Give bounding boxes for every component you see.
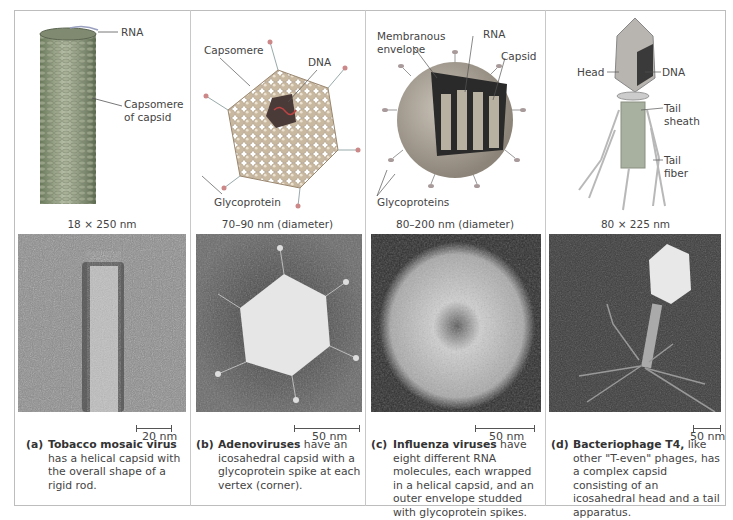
t4-micrograph [549,234,721,412]
label-capsid: Capsid [501,50,536,63]
panel-tobacco-mosaic-virus: RNA Capsomere of capsid 18 × 250 nm 20 n… [14,10,190,506]
caption-text: has a helical capsid with the overall sh… [48,452,180,492]
label-tail-sheath: Tail sheath [664,102,700,127]
caption-title: Tobacco mosaic virus [48,438,177,451]
label-glycoproteins: Glycoproteins [377,196,449,209]
caption-c: (c) Influenza viruses have eight differe… [371,438,543,520]
dimensions-label: 70–90 nm (diameter) [190,218,365,230]
caption-letter: (a) [26,438,43,452]
scale-bar [693,428,721,429]
scale-bar [475,428,535,429]
caption-title: Bacteriophage T4, [573,438,684,451]
panel-influenza-virus: Membranous envelope RNA Capsid Glycoprot… [365,10,545,506]
label-capsomere-of-capsid: Capsomere of capsid [124,98,184,123]
caption-title: Influenza viruses [393,438,497,451]
label-rna: RNA [121,26,143,39]
dimensions-label: 18 × 250 nm [14,218,190,230]
label-tail-fiber: Tail fiber [664,154,688,179]
panel-adenovirus: Capsomere DNA Glycoprotein 70–90 nm (dia… [190,10,365,506]
caption-a: (a) Tobacco mosaic virus has a helical c… [26,438,186,492]
scale-bar [294,428,360,429]
label-membranous-envelope: Membranous envelope [377,30,445,55]
tmv-illustration: RNA Capsomere of capsid [14,10,190,218]
caption-letter: (b) [196,438,214,452]
label-dna: DNA [662,66,685,79]
caption-d: (d) Bacteriophage T4, like other "T-even… [551,438,723,520]
label-dna: DNA [308,56,331,69]
label-glycoprotein: Glycoprotein [214,196,281,209]
panel-bacteriophage-t4: Head DNA Tail sheath Tail fiber 80 × 225… [545,10,726,506]
influenza-micrograph [371,234,541,412]
scale-bar [136,428,172,429]
adenovirus-illustration: Capsomere DNA Glycoprotein [190,10,365,218]
caption-letter: (c) [371,438,387,452]
caption-b: (b) Adenoviruses have an icosahedral cap… [196,438,362,492]
t4-illustration: Head DNA Tail sheath Tail fiber [545,10,726,218]
influenza-illustration: Membranous envelope RNA Capsid Glycoprot… [365,10,545,218]
caption-title: Adenoviruses [218,438,300,451]
label-rna: RNA [483,28,505,41]
label-head: Head [577,66,604,79]
tmv-micrograph [18,234,186,412]
dimensions-label: 80 × 225 nm [545,218,726,230]
label-capsomere: Capsomere [204,44,264,57]
adenovirus-micrograph [196,234,362,412]
dimensions-label: 80–200 nm (diameter) [365,218,545,230]
icosahedral-capsid-icon [190,10,365,218]
caption-letter: (d) [551,438,569,452]
